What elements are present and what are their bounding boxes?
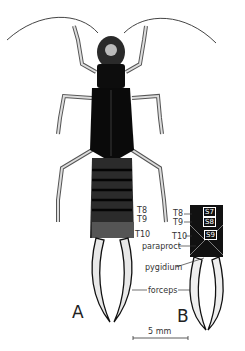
label-forceps: forceps xyxy=(148,286,177,295)
elytra xyxy=(90,88,134,158)
label-a-t10: T10 xyxy=(135,230,150,239)
label-b-t9: T9 xyxy=(173,218,183,227)
label-a-t9: T9 xyxy=(137,215,147,224)
label-pygidium: pygidium xyxy=(145,263,182,272)
panel-label-b: B xyxy=(177,307,189,325)
forceps-a-left xyxy=(92,238,110,322)
panel-label-a: A xyxy=(72,303,84,321)
right-antenna xyxy=(124,18,216,43)
forceps-b-right xyxy=(208,257,223,330)
pronotum xyxy=(97,64,125,88)
label-b-t8: T8 xyxy=(173,209,183,218)
left-antenna xyxy=(7,17,98,40)
earwig-illustration xyxy=(0,0,245,351)
scale-bar-label: 5 mm xyxy=(148,327,171,336)
forceps-b-left xyxy=(190,257,206,330)
label-a-t8: T8 xyxy=(137,206,147,215)
label-b-t10: T10 xyxy=(172,232,187,241)
label-b-s9: S9 xyxy=(204,230,217,240)
scale-bar xyxy=(133,336,188,340)
forceps-a-right xyxy=(114,238,132,322)
label-b-s7: S7 xyxy=(203,207,216,217)
label-b-s8: S8 xyxy=(203,217,216,227)
label-paraproct: paraproct xyxy=(142,242,181,251)
